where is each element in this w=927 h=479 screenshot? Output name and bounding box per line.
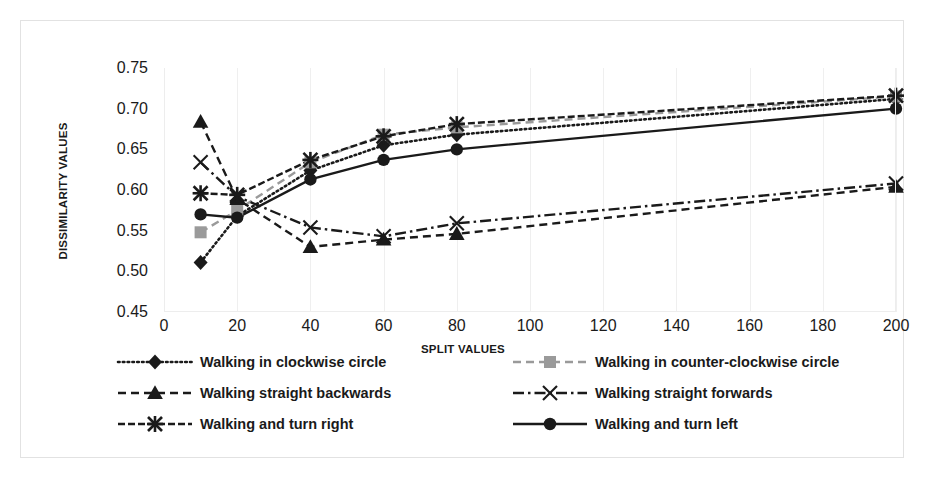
legend-item[interactable]: Walking straight backwards bbox=[116, 382, 391, 404]
legend-label: Walking straight backwards bbox=[194, 385, 391, 401]
data-point-marker-x-thin bbox=[194, 155, 208, 169]
legend-item[interactable]: Walking in counter-clockwise circle bbox=[511, 351, 839, 373]
y-axis-tick-label: 0.65 bbox=[96, 141, 148, 157]
legend-item[interactable]: Walking in clockwise circle bbox=[116, 351, 386, 373]
x-axis-tick-label: 60 bbox=[354, 318, 414, 334]
legend-key-swatch bbox=[511, 382, 589, 404]
data-point-marker-circle bbox=[194, 208, 206, 220]
series-layer bbox=[164, 68, 896, 312]
legend-label: Walking in clockwise circle bbox=[194, 354, 386, 370]
data-point-marker-square bbox=[195, 226, 207, 238]
x-axis-tick-label: 140 bbox=[646, 318, 706, 334]
data-point-marker-diamond bbox=[148, 355, 162, 370]
x-axis-tick-label: 0 bbox=[134, 318, 194, 334]
legend-item[interactable]: Walking and turn left bbox=[511, 413, 738, 435]
data-point-marker-triangle bbox=[888, 179, 904, 193]
x-axis-tick-label: 80 bbox=[427, 318, 487, 334]
data-point-marker-star bbox=[449, 116, 465, 132]
legend-label: Walking and turn left bbox=[589, 416, 738, 432]
x-axis-tick-label: 160 bbox=[720, 318, 780, 334]
legend-label: Walking and turn right bbox=[194, 416, 353, 432]
data-point-marker-circle bbox=[231, 211, 243, 223]
chart-legend: Walking in clockwise circleWalking in co… bbox=[116, 351, 906, 446]
x-axis-tick-label: 120 bbox=[573, 318, 633, 334]
legend-label: Walking in counter-clockwise circle bbox=[589, 354, 839, 370]
y-axis-tick-label: 0.75 bbox=[96, 60, 148, 76]
data-point-marker-square bbox=[544, 356, 556, 368]
legend-key-swatch bbox=[511, 351, 589, 373]
data-point-marker-triangle bbox=[193, 114, 209, 128]
legend-item[interactable]: Walking straight forwards bbox=[511, 382, 773, 404]
legend-key-swatch bbox=[116, 351, 194, 373]
x-axis-tick-label: 200 bbox=[866, 318, 926, 334]
data-point-marker-circle bbox=[304, 173, 316, 185]
y-axis-tick-label: 0.70 bbox=[96, 101, 148, 117]
y-axis-tick-label: 0.50 bbox=[96, 263, 148, 279]
data-point-marker-triangle bbox=[303, 239, 319, 253]
legend-item[interactable]: Walking and turn right bbox=[116, 413, 353, 435]
y-axis-title: DISSIMILARITY VALUES bbox=[51, 71, 75, 311]
legend-key-swatch bbox=[116, 382, 194, 404]
data-point-marker-circle bbox=[544, 418, 556, 430]
data-point-marker-circle bbox=[451, 143, 463, 155]
chart-figure: DISSIMILARITY VALUES 0.450.500.550.600.6… bbox=[20, 20, 904, 458]
x-axis-tick-label: 40 bbox=[280, 318, 340, 334]
y-axis-tick-label: 0.60 bbox=[96, 182, 148, 198]
data-point-marker-star bbox=[147, 416, 163, 432]
data-point-marker-circle bbox=[377, 154, 389, 166]
legend-label: Walking straight forwards bbox=[589, 385, 773, 401]
x-axis-tick-label: 100 bbox=[500, 318, 560, 334]
data-point-marker-circle bbox=[890, 102, 902, 114]
data-point-marker-star bbox=[193, 185, 209, 201]
x-axis-tick-label: 180 bbox=[793, 318, 853, 334]
data-point-marker-star bbox=[888, 88, 904, 104]
data-point-marker-star bbox=[376, 128, 392, 144]
data-point-marker-star bbox=[302, 152, 318, 168]
legend-key-swatch bbox=[116, 413, 194, 435]
data-point-marker-star bbox=[229, 187, 245, 203]
plot-area bbox=[164, 68, 896, 312]
x-axis-tick-label: 20 bbox=[207, 318, 267, 334]
y-axis-tick-label: 0.55 bbox=[96, 223, 148, 239]
legend-key-swatch bbox=[511, 413, 589, 435]
